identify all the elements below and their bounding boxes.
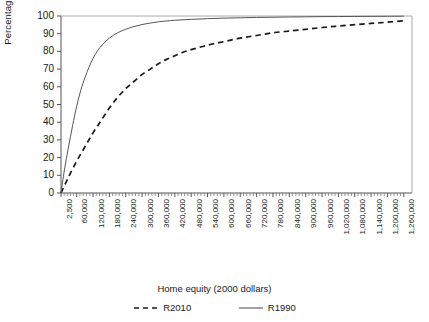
x-tick-label: 180,000 [113,199,122,228]
x-tick-label: 960,000 [326,199,335,228]
y-tick-label: 80 [24,45,54,56]
legend-solid-line-icon [238,304,264,312]
y-tick-label: 70 [24,63,54,74]
y-tick-label: 90 [24,28,54,39]
x-tick-label: 420,000 [178,199,187,228]
y-tick-label: 100 [24,10,54,21]
x-tick-label: 780,000 [276,199,285,228]
x-tick-label: 660,000 [244,199,253,228]
x-axis-title: Home equity (2000 dollars) [0,283,429,294]
x-tick-label: 1,140,000 [375,199,384,235]
x-tick-label: 240,000 [129,199,138,228]
legend-label-r2010: R2010 [163,302,191,313]
y-tick-label: 0 [24,187,54,198]
x-tick-label: 300,000 [146,199,155,228]
legend-entry-r2010: R2010 [133,301,191,313]
y-tick-label: 40 [24,116,54,127]
legend-entry-r1990: R1990 [238,301,296,313]
x-tick-label: 1,020,000 [342,199,351,235]
x-tick-label: 120,000 [97,199,106,228]
series-line-r2010 [61,21,404,193]
chart-figure: Percentage 0102030405060708090100 2,5006… [0,0,429,322]
legend-label-r1990: R1990 [268,302,296,313]
y-tick-label: 50 [24,99,54,110]
y-tick-label: 20 [24,152,54,163]
x-tick-label: 1,200,000 [391,199,400,235]
x-tick-label: 1,080,000 [358,199,367,235]
series-line-r1990 [61,16,404,193]
x-tick-label: 480,000 [195,199,204,228]
x-axis-ticks [61,193,404,197]
x-tick-label: 840,000 [293,199,302,228]
y-tick-label: 60 [24,81,54,92]
chart-legend: R2010 R1990 [0,301,429,313]
plot-area [0,0,429,322]
legend-dashed-line-icon [133,304,159,312]
x-tick-label: 360,000 [162,199,171,228]
axis-frame [61,16,412,193]
x-tick-label: 2,500 [65,199,74,219]
y-axis-ticks [57,16,61,193]
x-tick-label: 540,000 [211,199,220,228]
x-tick-label: 720,000 [260,199,269,228]
y-tick-label: 10 [24,169,54,180]
x-tick-label: 600,000 [227,199,236,228]
x-tick-label: 1,260,000 [407,199,416,235]
x-tick-label: 60,000 [80,199,89,223]
data-series-group [61,16,404,193]
y-tick-label: 30 [24,134,54,145]
x-tick-label: 900,000 [309,199,318,228]
